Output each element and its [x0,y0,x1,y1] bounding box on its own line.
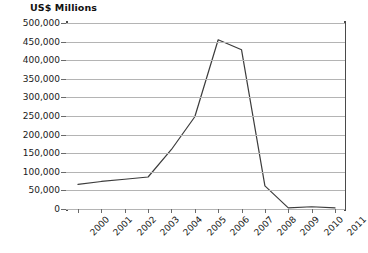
x-axis-tick-mark [312,209,313,213]
gridline [66,172,345,173]
x-axis-tick-label: 2006 [229,215,252,238]
x-axis-tick-label: 2010 [322,215,345,238]
x-axis-tick-label: 2002 [135,215,158,238]
y-axis-tick-label: 400,000 [2,56,60,65]
gridline [66,190,345,191]
gridline [66,209,345,210]
x-axis-tick-mark [218,209,219,213]
y-axis-tick-mark [61,97,66,98]
x-axis-tick-mark [78,209,79,213]
x-axis-tick-mark [335,209,336,213]
x-axis-tick-label: 2005 [206,215,229,238]
gridline [66,135,345,136]
y-axis-tick-label: 300,000 [2,93,60,102]
x-axis-tick-label: 2003 [159,215,182,238]
y-axis-tick-label: 100,000 [2,168,60,177]
x-axis-tick-mark [195,209,196,213]
y-axis-tick-mark [61,209,66,210]
x-axis-tick-mark [242,209,243,213]
y-axis-tick-label: 50,000 [2,186,60,195]
x-axis-tick-mark [288,209,289,213]
y-axis-tick-mark [61,153,66,154]
x-axis-tick-mark [125,209,126,213]
y-axis-tick-label: 200,000 [2,131,60,140]
y-axis-tick-label: 250,000 [2,112,60,121]
x-axis-tick-label: 2000 [89,215,112,238]
y-axis-tick-label: 450,000 [2,38,60,47]
y-axis-tick-label: 500,000 [2,19,60,28]
y-axis-tick-mark [61,172,66,173]
plot-area [66,23,345,209]
x-axis-tick-label: 2011 [346,215,368,238]
x-axis-tick-label: 2004 [182,215,205,238]
x-axis-tick-mark [171,209,172,213]
gridline [66,23,345,24]
x-axis-tick-label: 2001 [112,215,135,238]
x-axis-tick-mark [265,209,266,213]
y-axis-tick-label: 0 [2,205,60,214]
y-axis-tick-mark [61,116,66,117]
x-axis-tick-label: 2009 [299,215,322,238]
x-axis-tick-mark [148,209,149,213]
gridline [66,79,345,80]
x-axis-tick-label: 2008 [276,215,299,238]
y-axis-tick-mark [61,60,66,61]
y-axis-tick-mark [61,190,66,191]
gridline [66,116,345,117]
gridline [66,60,345,61]
y-axis-tick-label: 150,000 [2,149,60,158]
y-axis-tick-label: 350,000 [2,75,60,84]
gridline [66,97,345,98]
y-axis-tick-mark [61,135,66,136]
gridline [66,153,345,154]
x-axis-tick-mark [101,209,102,213]
y-axis-tick-mark [61,79,66,80]
gridline [66,42,345,43]
y-axis-tick-mark [61,23,66,24]
y-axis: 050,000100,000150,000200,000250,000300,0… [0,0,60,253]
x-axis-tick-label: 2007 [252,215,275,238]
y-axis-tick-mark [61,42,66,43]
